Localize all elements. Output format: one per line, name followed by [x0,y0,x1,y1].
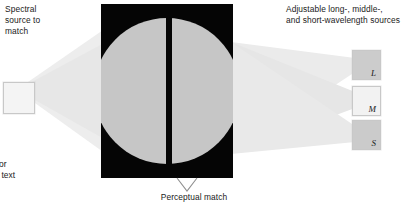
spectral-source-beam [28,28,108,154]
source-box-L[interactable]: L [352,50,381,80]
spectral-source-label: Spectral source to match [5,4,93,38]
adjustable-source-beams [229,28,359,163]
source-box-L-label: L [371,68,376,78]
source-box-S[interactable]: S [352,120,381,150]
source-box-M-label: M [369,104,377,114]
source-box-S-label: S [372,138,377,148]
adjustable-sources-label: Adjustable long-, middle-, and short-wav… [286,4,419,26]
viewing-panel [101,4,233,178]
source-box-M[interactable]: M [352,86,381,116]
field-divider [166,4,172,178]
color-matching-figure: Spectral source to match Adjustable long… [0,0,419,210]
perceptual-match-pointer [176,177,198,192]
figure-caption-fragment: cal setup for ents. (See text [0,159,105,181]
perceptual-match-label: Perceptual match [134,192,254,203]
spectral-source-box[interactable] [3,82,35,114]
